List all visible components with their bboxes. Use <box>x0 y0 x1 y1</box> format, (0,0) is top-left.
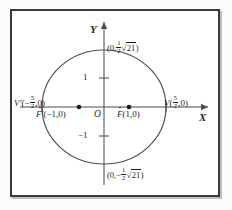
y-axis-arrowhead <box>101 22 107 29</box>
focus-right-label: F(1,0) <box>117 110 140 119</box>
covertex-top-radicand: 21 <box>126 42 136 53</box>
vertex-right-rest: ,0) <box>178 98 188 108</box>
origin-label: O <box>94 110 101 120</box>
focus-right-name: F <box>117 110 123 119</box>
covertex-bottom-open: (0,− <box>107 170 121 180</box>
covertex-top-label: (0,12√21) <box>107 40 139 55</box>
vertex-left-open: (− <box>21 98 29 108</box>
covertex-bottom-label: (0,−12√21) <box>107 167 143 182</box>
covertex-top-close: ) <box>136 43 139 53</box>
x-axis-arrowhead <box>201 104 208 110</box>
vertex-right-label: V(52,0) <box>164 95 188 111</box>
covertex-bottom-radical: √21 <box>126 169 140 180</box>
focus-left-label: F′(−1,0) <box>36 110 66 119</box>
y-tick-label-neg1: −1 <box>78 131 88 140</box>
figure-root: Y X O 1 −1 (0,12√21) (0,−12√21) V′(−52,0… <box>0 0 232 210</box>
covertex-bottom-radicand: 21 <box>131 169 141 180</box>
covertex-bottom-close: ) <box>141 170 144 180</box>
y-tick-label-1: 1 <box>83 73 88 82</box>
covertex-top-radical: √21 <box>122 42 136 53</box>
x-axis-label: X <box>199 112 206 123</box>
covertex-top-open: (0, <box>107 43 116 53</box>
focus-left-name: F′ <box>36 110 43 119</box>
focus-left-marker <box>77 105 82 110</box>
y-axis-label: Y <box>90 24 97 35</box>
figure-frame: Y X O 1 −1 (0,12√21) (0,−12√21) V′(−52,0… <box>10 9 220 197</box>
focus-left-coord: (−1,0) <box>43 109 65 119</box>
focus-right-coord: (1,0) <box>123 109 140 119</box>
